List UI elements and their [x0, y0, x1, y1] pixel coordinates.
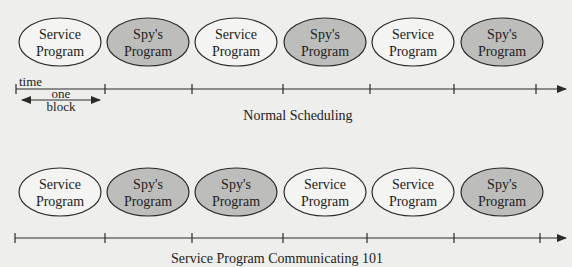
block-label-line2: Program — [212, 194, 260, 209]
block-label-line1: Service — [392, 177, 434, 192]
time-axis-label: time — [19, 74, 42, 89]
block-label-line1: Service — [39, 177, 81, 192]
block-service-program: Service Program — [284, 168, 366, 216]
block-label-line1: Spy's — [487, 177, 517, 192]
block-spy-program: Spy's Program — [284, 18, 366, 66]
normal-scheduling-diagram: Service Program Spy's Program Service Pr… — [16, 18, 566, 123]
block-label-line2: Program — [212, 44, 260, 59]
block-spy-program: Spy's Program — [195, 168, 277, 216]
block-label-line1: Service — [39, 27, 81, 42]
timeline-axis-top — [16, 84, 566, 94]
timeline-axis-bottom — [15, 233, 566, 243]
diagram-caption: Service Program Communicating 101 — [171, 251, 383, 266]
one-block-label-line2: block — [47, 99, 76, 114]
scheduling-diagram: Service Program Spy's Program Service Pr… — [0, 0, 572, 267]
block-spy-program: Spy's Program — [461, 168, 543, 216]
block-label-line2: Program — [301, 194, 349, 209]
one-block-indicator: one block — [22, 86, 100, 114]
block-label-line2: Program — [36, 44, 84, 59]
block-spy-program: Spy's Program — [107, 18, 189, 66]
block-label-line1: Spy's — [487, 27, 517, 42]
block-label-line1: Service — [304, 177, 346, 192]
block-label-line2: Program — [389, 44, 437, 59]
block-label-line1: Spy's — [133, 27, 163, 42]
diagram-caption: Normal Scheduling — [243, 108, 352, 123]
block-label-line2: Program — [389, 194, 437, 209]
block-spy-program: Spy's Program — [461, 18, 543, 66]
block-label-line2: Program — [36, 194, 84, 209]
block-service-program: Service Program — [19, 18, 101, 66]
block-label-line1: Spy's — [221, 177, 251, 192]
block-service-program: Service Program — [195, 18, 277, 66]
block-label-line2: Program — [478, 194, 526, 209]
block-label-line2: Program — [124, 194, 172, 209]
block-service-program: Service Program — [372, 18, 454, 66]
block-service-program: Service Program — [19, 168, 101, 216]
block-label-line2: Program — [124, 44, 172, 59]
block-label-line2: Program — [301, 44, 349, 59]
block-label-line1: Service — [215, 27, 257, 42]
communicating-101-diagram: Service Program Spy's Program Spy's Prog… — [15, 168, 566, 266]
block-label-line1: Service — [392, 27, 434, 42]
block-label-line1: Spy's — [310, 27, 340, 42]
block-row-bottom: Service Program Spy's Program Spy's Prog… — [19, 168, 543, 216]
block-row-top: Service Program Spy's Program Service Pr… — [19, 18, 543, 66]
block-label-line1: Spy's — [133, 177, 163, 192]
block-spy-program: Spy's Program — [107, 168, 189, 216]
block-label-line2: Program — [478, 44, 526, 59]
block-service-program: Service Program — [372, 168, 454, 216]
